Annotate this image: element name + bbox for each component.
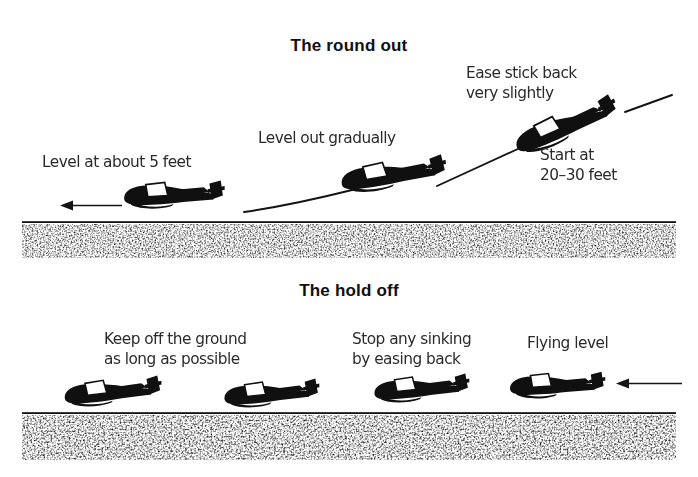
section-title-hold-off: The hold off [0,281,698,301]
caption-ease-stick-back: Ease stick back very slightly [466,63,577,103]
caption-flying-level: Flying level [527,333,608,353]
section-title-round-out: The round out [0,36,698,56]
glider-landing-diagram: The round out Level at about 5 feet Leve… [0,0,698,477]
caption-stop-any-sinking: Stop any sinking by easing back [352,329,471,369]
caption-level-out-gradually: Level out gradually [258,128,396,148]
caption-keep-off-the-ground: Keep off the ground as long as possible [104,329,247,369]
caption-start-at-20-30-feet: Start at 20–30 feet [540,145,617,185]
section-hold-off: The hold off [0,272,698,477]
caption-level-at-about-5-feet: Level at about 5 feet [42,152,191,172]
